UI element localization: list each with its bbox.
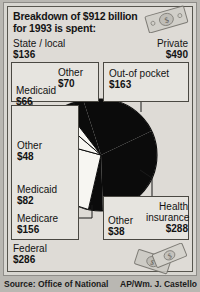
callout-health-insurance-label: Health insurance	[146, 201, 188, 223]
sector-state-local: State / local $136	[13, 38, 65, 60]
sector-federal: Federal $286	[13, 243, 47, 265]
callout-health-insurance: Health insurance $288	[146, 201, 188, 234]
callout-medicare-federal-amount: $156	[17, 224, 58, 235]
callout-other-state-amount: $70	[58, 78, 83, 89]
dollar-bill-icon: $	[140, 3, 192, 33]
callout-out-of-pocket-amount: $163	[109, 79, 169, 90]
sector-private-amount: $490	[157, 49, 188, 60]
sector-private: Private $490	[157, 38, 188, 60]
callout-medicaid-state-label: Medicaid	[16, 85, 56, 96]
callout-medicaid-state: Medicaid $66	[16, 85, 56, 107]
sector-state-local-label: State / local	[13, 38, 65, 49]
byline-credit: AP/Wm. J. Castello	[120, 279, 197, 289]
callout-other-state: Other $70	[58, 67, 83, 89]
callout-other-federal-amount: $48	[17, 151, 42, 162]
callout-other-private-label: Other	[108, 215, 133, 226]
page-title: Breakdown of $912 billion for 1993 is sp…	[13, 10, 143, 34]
callout-box-out-of-pocket: Out-of pocket $163	[103, 62, 189, 102]
callout-medicare-federal-label: Medicare	[17, 213, 58, 224]
sector-federal-label: Federal	[13, 243, 47, 254]
dollar-bills-icon: $ $	[132, 243, 192, 281]
sector-state-local-amount: $136	[13, 49, 65, 60]
callout-out-of-pocket: Out-of pocket $163	[109, 68, 169, 90]
callout-other-federal-label: Other	[17, 140, 42, 151]
callout-medicaid-federal: Medicaid $82	[17, 184, 57, 206]
callout-other-private-amount: $38	[108, 226, 133, 237]
sector-federal-amount: $286	[13, 254, 47, 265]
callout-box-private: Other $38 Health insurance $288	[103, 196, 189, 240]
callout-other-state-label: Other	[58, 67, 83, 78]
callout-medicaid-federal-amount: $82	[17, 195, 57, 206]
source-attribution: Source: Office of National	[4, 279, 116, 289]
callout-medicaid-federal-label: Medicaid	[17, 184, 57, 195]
sector-private-label: Private	[157, 38, 188, 49]
callout-box-federal: Other $48 Medicaid $82 Medicare $156	[11, 105, 79, 240]
callout-other-federal: Other $48	[17, 140, 42, 162]
callout-other-private: Other $38	[108, 215, 133, 237]
infographic-healthcare-spending: Breakdown of $912 billion for 1993 is sp…	[0, 0, 200, 292]
callout-out-of-pocket-label: Out-of pocket	[109, 68, 169, 79]
callout-medicare-federal: Medicare $156	[17, 213, 58, 235]
callout-health-insurance-amount: $288	[146, 223, 188, 234]
callout-box-state-local: Medicaid $66 Other $70	[11, 62, 99, 102]
